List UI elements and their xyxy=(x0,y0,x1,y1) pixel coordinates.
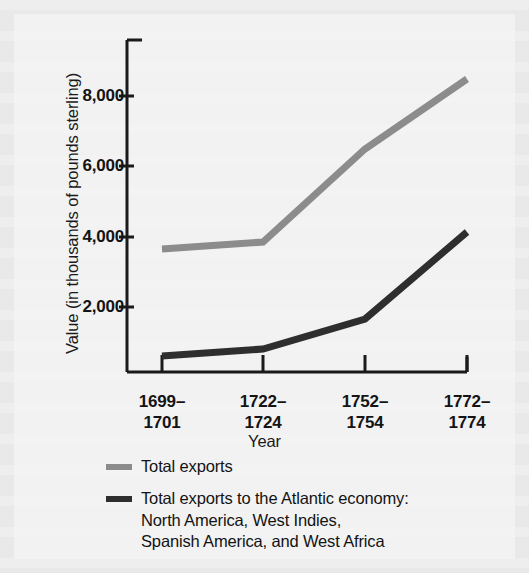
legend-label-total-exports: Total exports xyxy=(141,456,233,477)
legend-swatch-icon-atlantic-economy xyxy=(106,496,132,502)
chart-legend: Total exports Total exports to the Atlan… xyxy=(106,456,506,564)
x-tick-label-line1: 1722– xyxy=(240,392,286,411)
x-tick-marks xyxy=(162,355,467,372)
y-tick-label-2000: 2,000 xyxy=(54,297,124,317)
x-tick-label-line2: 1724 xyxy=(218,413,308,434)
y-tick-label-8000: 8,000 xyxy=(54,86,124,106)
x-tick-label-line1: 1699– xyxy=(139,392,185,411)
axis-spines xyxy=(127,40,467,372)
x-tick-label-line2: 1754 xyxy=(320,413,410,434)
y-tick-labels: 8,000 6,000 4,000 2,000 xyxy=(46,14,124,374)
y-tick-label-6000: 6,000 xyxy=(54,156,124,176)
legend-label-atlantic-economy: Total exports to the Atlantic economy: N… xyxy=(141,488,409,552)
legend-label-line1: Total exports to the Atlantic economy: xyxy=(141,489,409,507)
series-line-total-exports xyxy=(162,79,467,249)
x-tick-label-line1: 1772– xyxy=(444,392,490,411)
legend-label-line3: Spanish America, and West Africa xyxy=(141,531,409,552)
legend-swatch-icon-total-exports xyxy=(106,464,132,470)
legend-item-atlantic-economy: Total exports to the Atlantic economy: N… xyxy=(106,488,506,552)
legend-item-total-exports: Total exports xyxy=(106,456,506,477)
x-tick-label-line2: 1701 xyxy=(117,413,207,434)
x-tick-label-1699-1701: 1699– 1701 xyxy=(117,392,207,433)
x-tick-label-1772-1774: 1772– 1774 xyxy=(422,392,512,433)
chart-panel: Value (in thousands of pounds sterling) … xyxy=(14,14,515,559)
x-tick-label-line2: 1774 xyxy=(422,413,512,434)
x-tick-label-line1: 1752– xyxy=(342,392,388,411)
series-line-atlantic-economy xyxy=(162,232,467,356)
legend-label-line2: North America, West Indies, xyxy=(141,510,409,531)
chart-figure: Value (in thousands of pounds sterling) … xyxy=(0,0,529,573)
x-axis-title: Year xyxy=(14,432,515,451)
y-tick-label-4000: 4,000 xyxy=(54,227,124,247)
x-tick-label-1722-1724: 1722– 1724 xyxy=(218,392,308,433)
legend-label-line1: Total exports xyxy=(141,457,233,475)
x-tick-label-1752-1754: 1752– 1754 xyxy=(320,392,410,433)
